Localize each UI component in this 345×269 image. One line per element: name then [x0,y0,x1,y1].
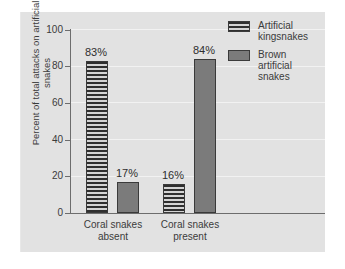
y-tick-label-80: 80 [23,61,63,71]
legend-label-kingsnakes: Artificial kingsnakes [258,20,324,42]
y-tick-20 [65,176,70,177]
bar-value-kingsnakes-present: 16% [162,170,184,181]
bar-value-brown-present: 84% [193,45,215,56]
y-tick-label-100: 100 [23,25,63,35]
y-tick-label-40: 40 [23,135,63,145]
bar-kingsnakes-present[interactable] [163,184,185,213]
legend-item-brown[interactable]: Brown artificial snakes [228,49,324,82]
figure: Percent of total attacks on artificial s… [0,0,345,269]
y-axis-line [70,29,71,214]
solid-gray-swatch-icon [228,50,250,61]
x-label-coral-present: Coral snakes present [155,219,225,243]
y-axis-title: Percent of total attacks on artificial s… [30,0,52,148]
y-tick-label-0: 0 [23,208,63,218]
x-axis-line [70,213,325,214]
legend-label-brown: Brown artificial snakes [258,49,324,82]
y-tick-label-20: 20 [23,171,63,181]
y-tick-60 [65,103,70,104]
y-tick-40 [65,140,70,141]
y-tick-label-60: 60 [23,98,63,108]
bar-brown-absent[interactable] [117,182,139,213]
bar-value-kingsnakes-absent: 83% [85,47,107,58]
y-tick-100 [65,30,70,31]
bar-value-brown-absent: 17% [116,168,138,179]
striped-swatch-icon [228,21,250,32]
y-tick-80 [65,66,70,67]
y-tick-0 [65,213,70,214]
legend: Artificial kingsnakes Brown artificial s… [228,20,324,89]
bar-kingsnakes-absent[interactable] [86,61,108,213]
bar-brown-present[interactable] [194,59,216,213]
x-label-coral-absent: Coral snakes absent [78,219,148,243]
legend-item-kingsnakes[interactable]: Artificial kingsnakes [228,20,324,42]
